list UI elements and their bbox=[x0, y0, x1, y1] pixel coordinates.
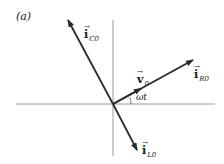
vector-arrow-icon: → bbox=[84, 24, 90, 31]
vector-arrow-icon: → bbox=[137, 69, 143, 76]
vector-iL0-arrow bbox=[113, 104, 137, 150]
label-iR0: → iR0 bbox=[194, 69, 209, 83]
label-iL0-subscript: L0 bbox=[147, 151, 156, 159]
vector-arrow-icon: → bbox=[142, 140, 148, 147]
label-v0: → v0 bbox=[137, 74, 149, 88]
vector-arrow-icon: → bbox=[194, 64, 200, 71]
label-iR0-subscript: R0 bbox=[199, 75, 209, 83]
phasor-diagram bbox=[0, 0, 224, 164]
label-iL0: → iL0 bbox=[142, 145, 156, 159]
angle-label: ωt bbox=[136, 93, 147, 102]
label-iC0: → iC0 bbox=[84, 29, 99, 43]
label-iC0-subscript: C0 bbox=[89, 35, 99, 43]
angle-arc bbox=[130, 97, 131, 104]
panel-label: (a) bbox=[16, 11, 31, 22]
label-v0-subscript: 0 bbox=[144, 80, 148, 88]
